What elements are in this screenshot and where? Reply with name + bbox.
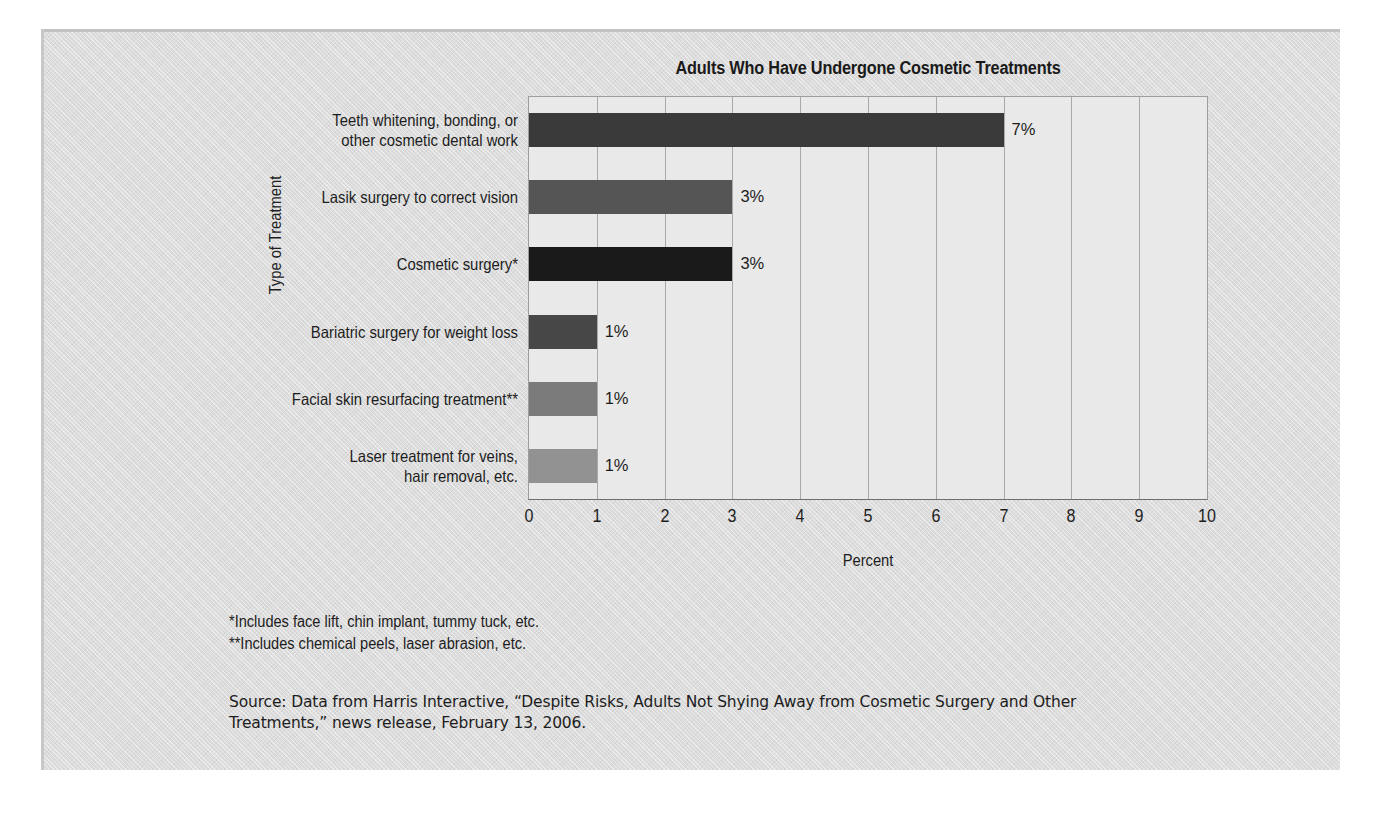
bar	[529, 315, 597, 349]
x-tick-label: 10	[1189, 506, 1226, 527]
bar-row: 1%	[529, 382, 1207, 416]
bar-value-label: 1%	[605, 322, 629, 341]
category-label-line: hair removal, etc.	[259, 466, 518, 486]
plot-area-wrapper: 7%3%3%1%1%1%	[528, 96, 1208, 500]
source-note: Source: Data from Harris Interactive, “D…	[229, 692, 1109, 734]
category-label: Teeth whitening, bonding, orother cosmet…	[259, 110, 518, 150]
bar-row: 3%	[529, 247, 1207, 281]
category-label: Lasik surgery to correct vision	[259, 187, 518, 207]
bar	[529, 113, 1004, 147]
category-label: Bariatric surgery for weight loss	[259, 322, 518, 342]
category-label-line: Lasik surgery to correct vision	[259, 187, 518, 207]
panel-left-edge	[41, 29, 44, 770]
bar-row: 1%	[529, 449, 1207, 483]
bar-row: 1%	[529, 315, 1207, 349]
category-label-line: Teeth whitening, bonding, or	[259, 110, 518, 130]
bar-row: 3%	[529, 180, 1207, 214]
footnotes: *Includes face lift, chin implant, tummy…	[229, 611, 929, 655]
x-tick-label: 1	[578, 506, 615, 527]
bar	[529, 247, 732, 281]
category-label: Cosmetic surgery*	[259, 254, 518, 274]
x-tick-label: 2	[646, 506, 683, 527]
footnote: *Includes face lift, chin implant, tummy…	[229, 611, 866, 633]
bar-value-label: 1%	[605, 389, 629, 408]
x-axis-title: Percent	[555, 552, 1181, 570]
x-tick-label: 8	[1053, 506, 1090, 527]
category-axis-labels: Teeth whitening, bonding, orother cosmet…	[230, 96, 518, 500]
chart-title: Adults Who Have Undergone Cosmetic Treat…	[552, 58, 1184, 79]
source-line-2: Treatments,” news release, February 13, …	[229, 713, 1109, 734]
category-label-line: other cosmetic dental work	[259, 130, 518, 150]
bar-series: 7%3%3%1%1%1%	[529, 96, 1207, 500]
x-axis-tick-labels: 012345678910	[528, 506, 1210, 530]
bar	[529, 180, 732, 214]
category-label: Laser treatment for veins,hair removal, …	[259, 446, 518, 486]
bar-value-label: 1%	[605, 456, 629, 475]
category-label-line: Cosmetic surgery*	[259, 254, 518, 274]
category-label: Facial skin resurfacing treatment**	[259, 389, 518, 409]
bar-value-label: 3%	[740, 254, 764, 273]
category-label-line: Bariatric surgery for weight loss	[259, 322, 518, 342]
x-tick-label: 0	[511, 506, 548, 527]
x-tick-label: 5	[850, 506, 887, 527]
footnote: **Includes chemical peels, laser abrasio…	[229, 633, 866, 655]
bar-value-label: 7%	[1012, 120, 1036, 139]
x-tick-label: 3	[714, 506, 751, 527]
x-tick-label: 6	[917, 506, 954, 527]
x-tick-label: 4	[782, 506, 819, 527]
bar	[529, 382, 597, 416]
bar-value-label: 3%	[740, 187, 764, 206]
bar	[529, 449, 597, 483]
x-tick-label: 7	[985, 506, 1022, 527]
category-label-line: Laser treatment for veins,	[259, 446, 518, 466]
source-line-1: Source: Data from Harris Interactive, “D…	[229, 692, 1109, 713]
x-tick-label: 9	[1121, 506, 1158, 527]
bar-row: 7%	[529, 113, 1207, 147]
category-label-line: Facial skin resurfacing treatment**	[259, 389, 518, 409]
panel-top-edge	[41, 29, 1340, 32]
